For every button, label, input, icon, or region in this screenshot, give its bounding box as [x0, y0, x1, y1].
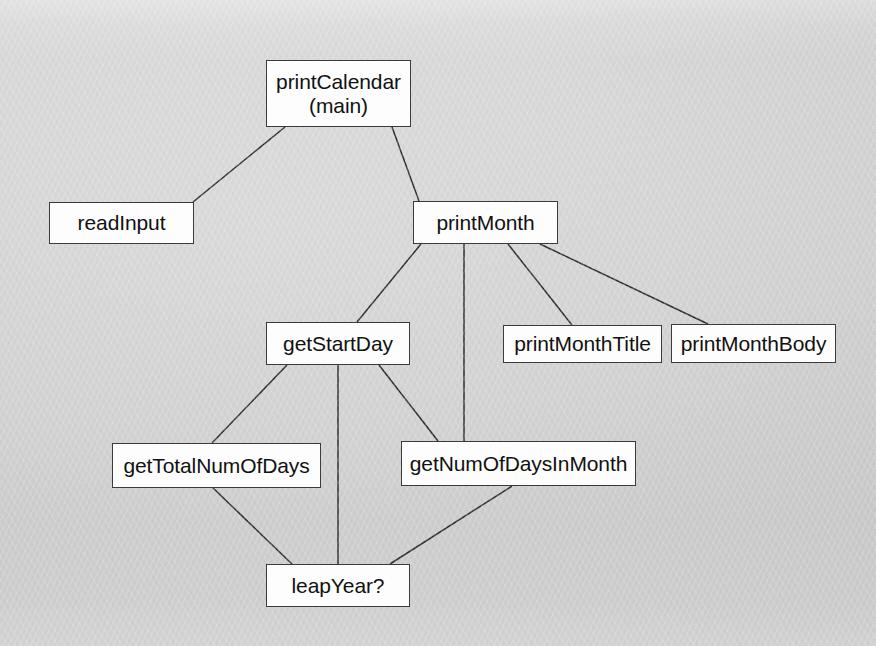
edge-getNumOfDaysInMonth-to-leapYear [390, 486, 512, 564]
edge-getStartDay-to-getTotalNumOfDays [212, 365, 287, 443]
node-label: getTotalNumOfDays [123, 454, 309, 478]
structure-chart-canvas: printCalendar (main) readInput printMont… [0, 0, 876, 646]
node-getstartday[interactable]: getStartDay [266, 322, 410, 365]
edge-layer [0, 0, 876, 646]
node-printmonthbody[interactable]: printMonthBody [671, 324, 836, 363]
edge-printCalendar-to-printMonth [392, 127, 419, 201]
node-label: getStartDay [283, 332, 393, 356]
node-label: leapYear? [292, 574, 385, 598]
node-printmonth[interactable]: printMonth [413, 201, 558, 244]
node-label: printMonth [436, 211, 534, 235]
node-label: printCalendar (main) [276, 70, 401, 117]
node-label: getNumOfDaysInMonth [410, 452, 628, 476]
node-printcalendar[interactable]: printCalendar (main) [266, 60, 411, 127]
edge-printCalendar-to-readInput [193, 127, 285, 202]
edge-printMonth-to-printMonthTitle [508, 244, 572, 325]
edge-getTotalNumOfDays-to-leapYear [213, 488, 292, 564]
node-label: printMonthBody [681, 332, 827, 356]
node-leapyear[interactable]: leapYear? [266, 564, 410, 607]
node-printmonthtitle[interactable]: printMonthTitle [503, 325, 662, 363]
edge-getStartDay-to-getNumOfDaysInMonth [379, 365, 438, 441]
node-label: readInput [78, 211, 166, 235]
node-readinput[interactable]: readInput [49, 202, 194, 244]
edge-printMonth-to-getStartDay [357, 244, 421, 322]
edge-printMonth-to-printMonthBody [540, 244, 708, 324]
node-label: printMonthTitle [514, 332, 651, 356]
node-getnumofdaysinmonth[interactable]: getNumOfDaysInMonth [401, 441, 636, 486]
node-gettotalnumofdays[interactable]: getTotalNumOfDays [112, 443, 321, 488]
